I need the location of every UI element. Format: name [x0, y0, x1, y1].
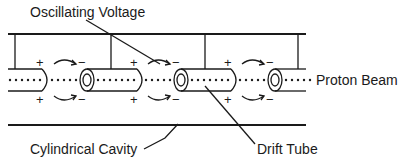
plus-sign: +	[130, 92, 138, 107]
proton-beam-dots	[9, 79, 311, 81]
proton-beam-label: Proton Beam	[316, 72, 398, 88]
linac-diagram: + − + − + − + − + − + − Oscillating Volt…	[0, 0, 407, 163]
plus-sign: +	[224, 92, 232, 107]
leader-oscillating-voltage	[86, 20, 160, 64]
cylindrical-cavity-label: Cylindrical Cavity	[30, 141, 137, 157]
minus-sign: −	[266, 92, 274, 107]
plus-sign: +	[224, 55, 232, 70]
minus-sign: −	[172, 92, 180, 107]
leader-cylindrical-cavity	[144, 124, 178, 149]
minus-sign: −	[78, 92, 86, 107]
drift-tube-label: Drift Tube	[257, 141, 318, 157]
oscillating-voltage-label: Oscillating Voltage	[30, 4, 145, 20]
plus-sign: +	[130, 55, 138, 70]
plus-sign: +	[36, 55, 44, 70]
plus-sign: +	[36, 92, 44, 107]
minus-sign: −	[266, 55, 274, 70]
minus-sign: −	[172, 55, 180, 70]
minus-sign: −	[78, 55, 86, 70]
